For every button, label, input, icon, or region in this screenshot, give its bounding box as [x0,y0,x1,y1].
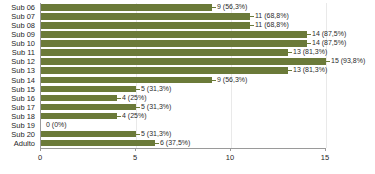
label-leader-line [117,116,121,117]
bar-row[interactable]: 5 (31,3%) [41,85,325,94]
bar-value-label: 13 (81,3%) [293,65,327,74]
label-leader-line [307,43,311,44]
bar-value-label: 5 (31,3%) [141,84,171,93]
label-leader-line [136,89,140,90]
category-label: Adulto [0,139,38,148]
bar-value-label: 11 (68,8%) [255,20,289,29]
category-label: Sub 06 [0,3,38,12]
x-tick-mark [230,148,231,151]
category-label: Sub 13 [0,66,38,75]
bar-row[interactable]: 11 (68,8%) [41,21,325,30]
bar-value-label: 13 (81,3%) [293,47,327,56]
x-tick-label: 15 [321,153,329,162]
category-label: Sub 08 [0,21,38,30]
bar-value-label: 15 (93,8%) [331,56,365,65]
x-axis-line [40,148,325,149]
bar-value-label: 6 (37,5%) [160,138,190,147]
bar-row[interactable]: 15 (93,8%) [41,57,325,66]
bar[interactable] [41,104,136,111]
label-leader-line [212,80,216,81]
bar-value-label: 9 (56,3%) [217,75,247,84]
bar[interactable] [41,4,212,11]
bar[interactable] [41,58,326,65]
bar[interactable] [41,95,117,102]
bar-row[interactable]: 13 (81,3%) [41,48,325,57]
label-leader-line [155,143,159,144]
label-leader-line [250,25,254,26]
label-leader-line [288,52,292,53]
label-leader-line [326,61,330,62]
category-label: Sub 18 [0,112,38,121]
label-leader-line [250,16,254,17]
bar[interactable] [41,22,250,29]
label-leader-line [307,34,311,35]
category-label: Sub 19 [0,121,38,130]
bar[interactable] [41,131,136,138]
x-tick-label: 5 [133,153,137,162]
x-tick-mark [135,148,136,151]
label-leader-line [136,134,140,135]
bar-row[interactable]: 9 (56,3%) [41,76,325,85]
category-label: Sub 20 [0,130,38,139]
bar-row[interactable]: 0 (0%) [41,121,325,130]
bar-rows: 9 (56,3%)11 (68,8%)11 (68,8%)14 (87,5%)1… [41,3,325,148]
label-leader-line [136,107,140,108]
category-axis-labels: Sub 06Sub 07Sub 08Sub 09Sub 10Sub 11Sub … [0,3,38,148]
label-leader-line [288,70,292,71]
bar-value-label: 5 (31,3%) [141,129,171,138]
bar-value-label: 4 (25%) [122,111,147,120]
bar-row[interactable]: 4 (25%) [41,112,325,121]
plot-area: 9 (56,3%)11 (68,8%)11 (68,8%)14 (87,5%)1… [40,3,325,148]
label-leader-line [117,98,121,99]
category-label: Sub 16 [0,94,38,103]
x-tick-label: 10 [226,153,234,162]
label-leader-line [212,7,216,8]
bar[interactable] [41,31,307,38]
bar[interactable] [41,77,212,84]
bar[interactable] [41,40,307,47]
category-label: Sub 17 [0,103,38,112]
bar[interactable] [41,113,117,120]
bar[interactable] [41,13,250,20]
bar[interactable] [41,49,288,56]
category-label: Sub 09 [0,30,38,39]
bar-row[interactable]: 5 (31,3%) [41,103,325,112]
bar[interactable] [41,86,136,93]
x-tick-mark [325,148,326,151]
bar-chart: Sub 06Sub 07Sub 08Sub 09Sub 10Sub 11Sub … [0,0,375,174]
category-label: Sub 07 [0,12,38,21]
bar-row[interactable]: 14 (87,5%) [41,39,325,48]
category-label: Sub 10 [0,39,38,48]
bar-value-label: 14 (87,5%) [312,38,346,47]
bar-value-label: 14 (87,5%) [312,29,346,38]
bar-row[interactable]: 4 (25%) [41,94,325,103]
bar-value-label: 11 (68,8%) [255,11,289,20]
x-tick-label: 0 [38,153,42,162]
x-tick-mark [40,148,41,151]
bar[interactable] [41,67,288,74]
bar-row[interactable]: 13 (81,3%) [41,66,325,75]
bar-value-label: 0 (0%) [46,120,67,129]
bar-value-label: 5 (31,3%) [141,102,171,111]
gridline [326,3,327,148]
bar-value-label: 4 (25%) [122,93,147,102]
bar-row[interactable]: 14 (87,5%) [41,30,325,39]
bar[interactable] [41,140,155,147]
bar-value-label: 9 (56,3%) [217,2,247,11]
category-label: Sub 12 [0,57,38,66]
bar-row[interactable]: 6 (37,5%) [41,139,325,148]
category-label: Sub 15 [0,85,38,94]
category-label: Sub 14 [0,76,38,85]
category-label: Sub 11 [0,48,38,57]
